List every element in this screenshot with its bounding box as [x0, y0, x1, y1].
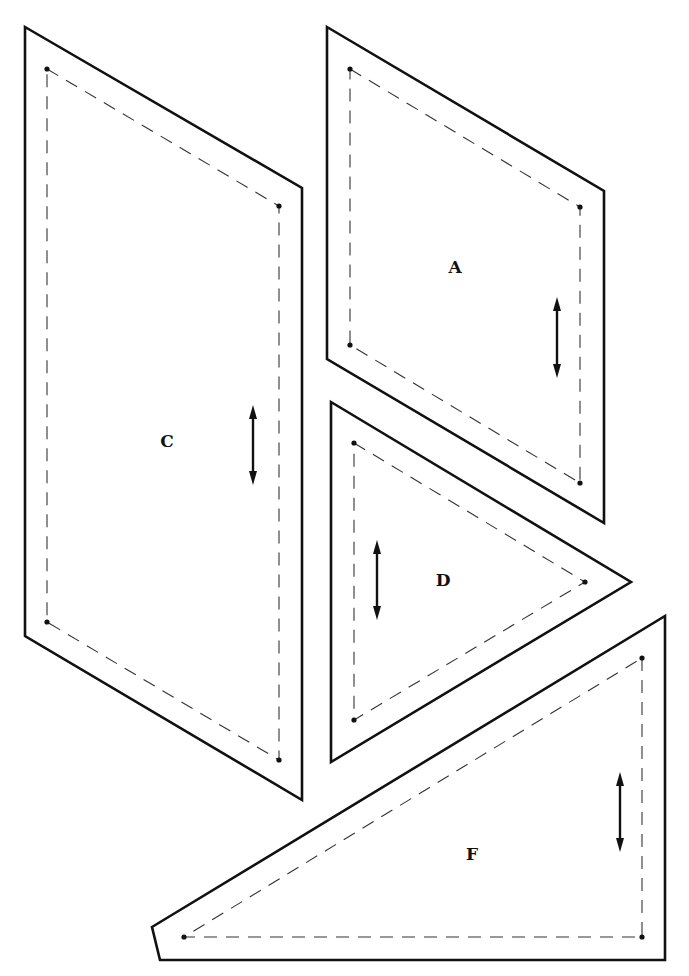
seam-corner-dot — [347, 66, 352, 71]
seam-corner-dot — [577, 480, 582, 485]
piece-label-c: C — [160, 431, 174, 451]
seam-corner-dot — [44, 66, 49, 71]
pattern-piece-f: F — [152, 616, 665, 960]
pattern-sheet: CADF — [0, 0, 689, 976]
seam-corner-dot — [347, 342, 352, 347]
pattern-piece-c: C — [25, 27, 302, 800]
seam-corner-dot — [276, 757, 281, 762]
cutting-line-a — [327, 27, 604, 523]
grainline-arrow-icon — [373, 540, 381, 620]
piece-label-f: F — [466, 844, 478, 864]
seam-line-a — [350, 69, 580, 483]
seam-line-c — [47, 69, 279, 760]
seam-corner-dot — [351, 440, 356, 445]
grainline-arrow-icon — [616, 772, 624, 852]
grainline-arrow-icon — [249, 405, 257, 485]
seam-corner-dot — [639, 934, 644, 939]
pattern-piece-a: A — [327, 27, 604, 523]
seam-corner-dot — [577, 204, 582, 209]
cutting-line-f — [152, 616, 665, 960]
seam-corner-dot — [181, 934, 186, 939]
seam-corner-dot — [276, 203, 281, 208]
seam-corner-dot — [582, 579, 587, 584]
cutting-line-c — [25, 27, 302, 800]
seam-line-f — [184, 658, 642, 937]
seam-corner-dot — [639, 655, 644, 660]
seam-corner-dot — [44, 619, 49, 624]
pattern-piece-d: D — [331, 402, 631, 762]
seam-corner-dot — [351, 717, 356, 722]
grainline-arrow-icon — [553, 297, 561, 378]
piece-label-d: D — [436, 570, 451, 590]
piece-label-a: A — [447, 257, 462, 277]
